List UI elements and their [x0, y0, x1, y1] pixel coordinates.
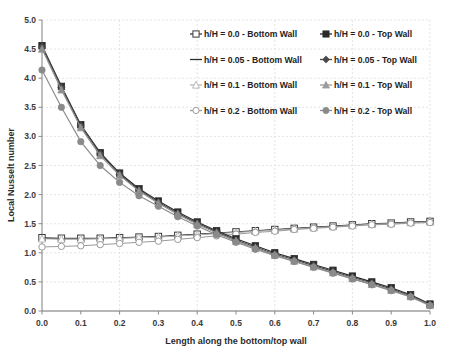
- legend-entry[interactable]: h/H = 0.05 - Bottom Wall: [190, 55, 302, 65]
- data-point-marker: [349, 276, 355, 282]
- legend-label: h/H = 0.05 - Top Wall: [334, 55, 417, 65]
- data-point-marker: [349, 223, 355, 229]
- data-point-marker: [291, 226, 297, 232]
- data-point-marker: [194, 223, 200, 229]
- y-tick-label: 4.0: [24, 73, 36, 83]
- legend-label: h/H = 0.05 - Bottom Wall: [204, 55, 302, 65]
- data-point-marker: [388, 287, 394, 293]
- data-point-marker: [272, 228, 278, 234]
- data-point-marker: [58, 243, 64, 249]
- data-point-marker: [252, 246, 258, 252]
- data-point-marker: [193, 107, 199, 113]
- x-tick-label: 1.0: [424, 318, 436, 328]
- x-tick-label: 0.3: [152, 318, 164, 328]
- data-point-marker: [78, 138, 84, 144]
- y-tick-label: 5.0: [24, 15, 36, 25]
- data-point-marker: [407, 294, 413, 300]
- y-tick-label: 3.0: [24, 131, 36, 141]
- y-tick-label: 4.5: [24, 44, 36, 54]
- data-point-marker: [388, 221, 394, 227]
- data-point-marker: [175, 236, 181, 242]
- x-tick-label: 0.4: [191, 318, 203, 328]
- nusselt-number-line-chart: 0.00.51.01.52.02.53.03.54.04.55.0 0.00.1…: [0, 0, 452, 352]
- data-point-marker: [407, 220, 413, 226]
- data-point-marker: [291, 258, 297, 264]
- y-tick-label: 2.5: [24, 161, 36, 171]
- data-point-marker: [116, 240, 122, 246]
- x-tick-label: 0.6: [269, 318, 281, 328]
- x-tick-label: 0.2: [114, 318, 126, 328]
- x-axis-title: Length along the bottom/top wall: [165, 336, 306, 346]
- data-point-marker: [323, 107, 329, 113]
- y-tick-label: 1.0: [24, 248, 36, 258]
- x-tick-label: 0.0: [36, 318, 48, 328]
- data-point-marker: [194, 234, 200, 240]
- data-point-marker: [233, 239, 239, 245]
- legend-entry[interactable]: h/H = 0.0 - Top Wall: [320, 29, 412, 39]
- data-point-marker: [252, 229, 258, 235]
- legend-label: h/H = 0.0 - Top Wall: [334, 29, 412, 39]
- data-point-marker: [310, 225, 316, 231]
- legend-label: h/H = 0.1 - Bottom Wall: [204, 80, 297, 90]
- data-point-marker: [330, 270, 336, 276]
- chart-background: [0, 0, 452, 352]
- data-point-marker: [116, 179, 122, 185]
- x-tick-label: 0.8: [346, 318, 358, 328]
- data-point-marker: [155, 203, 161, 209]
- data-point-marker: [369, 282, 375, 288]
- data-point-marker: [39, 67, 45, 73]
- legend-label: h/H = 0.2 - Bottom Wall: [204, 106, 297, 116]
- data-point-marker: [369, 222, 375, 228]
- legend-entry[interactable]: h/H = 0.0 - Bottom Wall: [190, 29, 297, 39]
- y-tick-label: 1.5: [24, 219, 36, 229]
- data-point-marker: [272, 253, 278, 259]
- data-point-marker: [136, 239, 142, 245]
- data-point-marker: [213, 232, 219, 238]
- y-axis-title: Local Nusselt number: [6, 127, 16, 222]
- data-point-marker: [78, 243, 84, 249]
- legend-label: h/H = 0.0 - Bottom Wall: [204, 29, 297, 39]
- data-point-marker: [193, 31, 199, 37]
- data-point-marker: [427, 219, 433, 225]
- data-point-marker: [97, 162, 103, 168]
- legend-entry[interactable]: h/H = 0.1 - Bottom Wall: [190, 80, 297, 90]
- data-point-marker: [330, 224, 336, 230]
- legend-label: h/H = 0.1 - Top Wall: [334, 80, 412, 90]
- data-point-marker: [427, 303, 433, 309]
- y-tick-label: 0.5: [24, 277, 36, 287]
- y-tick-label: 3.5: [24, 102, 36, 112]
- data-point-marker: [155, 238, 161, 244]
- data-point-marker: [175, 214, 181, 220]
- legend-label: h/H = 0.2 - Top Wall: [334, 106, 412, 116]
- y-tick-label: 2.0: [24, 190, 36, 200]
- x-tick-label: 0.5: [230, 318, 242, 328]
- x-tick-label: 0.7: [308, 318, 320, 328]
- data-point-marker: [136, 193, 142, 199]
- data-point-marker: [323, 31, 329, 37]
- legend-entry[interactable]: h/H = 0.2 - Bottom Wall: [190, 106, 297, 116]
- x-tick-label: 0.9: [385, 318, 397, 328]
- legend-entry[interactable]: h/H = 0.2 - Top Wall: [320, 106, 412, 116]
- data-point-marker: [39, 244, 45, 250]
- legend-entry[interactable]: h/H = 0.1 - Top Wall: [320, 80, 412, 90]
- data-point-marker: [310, 264, 316, 270]
- data-point-marker: [58, 104, 64, 110]
- data-point-marker: [97, 241, 103, 247]
- y-tick-label: 0.0: [24, 306, 36, 316]
- x-tick-label: 0.1: [75, 318, 87, 328]
- legend-entry[interactable]: h/H = 0.05 - Top Wall: [320, 55, 417, 65]
- chart-container: 0.00.51.01.52.02.53.03.54.04.55.0 0.00.1…: [0, 0, 452, 352]
